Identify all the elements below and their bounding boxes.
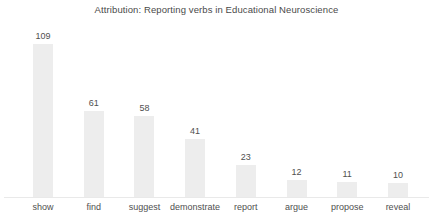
bar-value-label: 58 — [119, 103, 169, 113]
bar-value-label: 11 — [322, 169, 372, 179]
bar — [236, 165, 256, 197]
bar-group: 61 — [69, 24, 119, 197]
bar-value-label: 10 — [373, 170, 423, 180]
bar-group: 58 — [119, 24, 169, 197]
bar — [185, 139, 205, 197]
x-axis-line — [4, 197, 429, 198]
bar-value-label: 61 — [69, 98, 119, 108]
bar-chart: Attribution: Reporting verbs in Educatio… — [0, 0, 433, 219]
bar — [84, 111, 104, 197]
bar-group: 23 — [221, 24, 271, 197]
bar-value-label: 12 — [272, 167, 322, 177]
bar-value-label: 23 — [221, 152, 271, 162]
bar — [287, 180, 307, 197]
bar — [134, 116, 154, 197]
bar-group: 12 — [272, 24, 322, 197]
plot-area: 10961584123121110 — [0, 24, 433, 197]
bar — [337, 182, 357, 197]
bar — [33, 44, 53, 197]
chart-title: Attribution: Reporting verbs in Educatio… — [0, 4, 433, 15]
bar-group: 41 — [170, 24, 220, 197]
bar-value-label: 41 — [170, 126, 220, 136]
bar-group: 109 — [18, 24, 68, 197]
bar — [388, 183, 408, 197]
bar-group: 11 — [322, 24, 372, 197]
x-axis-tick-label: reveal — [368, 202, 428, 212]
bar-value-label: 109 — [18, 31, 68, 41]
bar-group: 10 — [373, 24, 423, 197]
